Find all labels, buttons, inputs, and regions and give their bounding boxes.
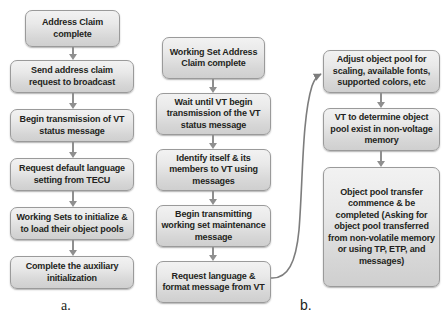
node-b-left-4: Begin transmitting working set maintenan… xyxy=(156,205,271,247)
node-a-1: Address Claim complete xyxy=(25,10,120,47)
arrow-shaft xyxy=(380,93,382,102)
node-a-4-label: Request default language setting from TE… xyxy=(15,163,129,186)
arrow-b-left-2-3 xyxy=(204,135,222,149)
arrow-b-left-1-2 xyxy=(204,79,222,93)
arrow-shaft xyxy=(72,191,74,201)
arrow-a-3-4 xyxy=(64,142,82,158)
node-a-6: Complete the auxiliary initialization xyxy=(10,256,134,289)
arrow-shaft xyxy=(72,240,74,250)
panel-letter-b: b. xyxy=(300,297,312,313)
arrow-shaft xyxy=(72,47,74,54)
node-b-left-4-label: Begin transmitting working set maintenan… xyxy=(161,209,266,243)
node-a-2: Send address claim request to broadcast xyxy=(10,60,134,93)
curved-connector-path xyxy=(271,74,321,278)
arrow-shaft xyxy=(212,247,214,255)
node-b-left-2-label: Wait until VT begin transmission of the … xyxy=(161,97,266,131)
arrow-b-right-2-3 xyxy=(372,151,390,167)
arrow-shaft xyxy=(212,135,214,143)
arrow-b-left-4-5 xyxy=(204,247,222,261)
node-b-right-3-label: Object pool transfer commence & be compl… xyxy=(328,187,435,267)
node-b-left-3: Identify itself & its members to VT usin… xyxy=(156,149,271,191)
arrow-a-2-3 xyxy=(64,93,82,109)
arrow-b-right-1-2 xyxy=(372,93,390,108)
node-a-5: Working Sets to initialize & to load the… xyxy=(10,207,134,240)
arrow-shaft xyxy=(380,151,382,161)
node-a-4: Request default language setting from TE… xyxy=(10,158,134,191)
arrow-shaft xyxy=(212,191,214,199)
node-b-right-1-label: Adjust object pool for scaling, availabl… xyxy=(328,54,435,88)
arrow-a-5-6 xyxy=(64,240,82,256)
node-b-left-5-label: Request language & format message from V… xyxy=(161,271,266,294)
node-b-left-3-label: Identify itself & its members to VT usin… xyxy=(161,153,266,187)
arrow-a-4-5 xyxy=(64,191,82,207)
arrow-a-1-2 xyxy=(64,47,82,60)
node-b-left-1-label: Working Set Address Claim complete xyxy=(167,47,260,70)
flowchart-figure: Address Claim complete Send address clai… xyxy=(0,0,443,327)
node-a-6-label: Complete the auxiliary initialization xyxy=(15,261,129,284)
node-a-2-label: Send address claim request to broadcast xyxy=(15,65,129,88)
node-a-3: Begin transmission of VT status message xyxy=(10,109,134,142)
arrow-shaft xyxy=(72,93,74,103)
node-a-3-label: Begin transmission of VT status message xyxy=(15,114,129,137)
node-a-1-label: Address Claim complete xyxy=(30,17,115,40)
node-b-right-1: Adjust object pool for scaling, availabl… xyxy=(323,50,440,93)
node-b-left-2: Wait until VT begin transmission of the … xyxy=(156,93,271,135)
node-b-left-1: Working Set Address Claim complete xyxy=(162,37,265,79)
node-b-right-2-label: VT to determine object pool exist in non… xyxy=(328,112,435,146)
arrow-b-left-3-4 xyxy=(204,191,222,205)
node-b-left-5: Request language & format message from V… xyxy=(156,261,271,303)
arrow-shaft xyxy=(72,142,74,152)
arrow-shaft xyxy=(212,79,214,87)
node-b-right-2: VT to determine object pool exist in non… xyxy=(323,108,440,151)
panel-letter-a: a. xyxy=(61,298,71,314)
node-a-5-label: Working Sets to initialize & to load the… xyxy=(15,212,129,235)
node-b-right-3: Object pool transfer commence & be compl… xyxy=(323,167,440,287)
